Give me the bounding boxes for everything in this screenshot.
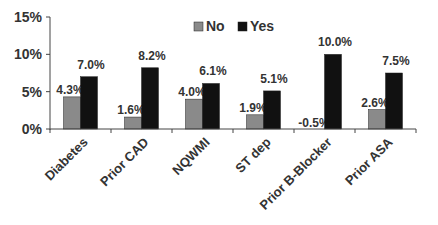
bars: 4.3%7.0%1.6%8.2%4.0%6.1%1.9%5.1%-0.5%10.… (56, 35, 410, 130)
bar-no (186, 99, 203, 129)
bar-no (125, 117, 142, 129)
x-category-label: Diabetes (42, 135, 91, 184)
bar-no (369, 110, 386, 129)
bar-yes (203, 83, 220, 129)
data-label: 4.0% (178, 85, 206, 99)
bar-yes (325, 54, 342, 129)
x-category-label: NQWMI (169, 135, 212, 178)
data-label: 4.3% (56, 83, 84, 97)
bar-yes (142, 68, 159, 129)
legend-swatch-no (194, 22, 203, 31)
x-category-label: ST dep (232, 134, 273, 175)
y-tick-label: 15% (14, 9, 43, 25)
bar-yes (386, 73, 403, 129)
y-tick-label: 5% (22, 84, 43, 100)
y-tick-label: 0% (22, 121, 43, 137)
bar-yes (264, 91, 281, 129)
data-label: 7.0% (77, 58, 105, 72)
data-label: 1.6% (117, 103, 145, 117)
x-axis: DiabetesPrior CADNQWMIST depPrior B-Bloc… (42, 129, 416, 213)
legend-swatch-yes (238, 22, 247, 31)
bar-no (64, 97, 81, 129)
data-label: 1.9% (239, 101, 267, 115)
data-label: 7.5% (382, 54, 410, 68)
bar-no (247, 115, 264, 129)
bar-yes (81, 77, 98, 129)
data-label: 5.1% (260, 72, 288, 86)
data-label: 10.0% (318, 35, 352, 49)
y-axis: 0%5%10%15% (14, 9, 50, 137)
data-label: 8.2% (138, 49, 166, 63)
x-category-label: Prior ASA (342, 134, 396, 188)
y-tick-label: 10% (14, 46, 43, 62)
bar-chart: 0%5%10%15% 4.3%7.0%1.6%8.2%4.0%6.1%1.9%5… (0, 0, 438, 225)
data-label: 2.6% (361, 96, 389, 110)
legend-label-no: No (206, 18, 225, 34)
legend-label-yes: Yes (250, 18, 274, 34)
x-category-label: Prior CAD (97, 135, 152, 190)
data-label: 6.1% (199, 64, 227, 78)
legend: NoYes (194, 18, 274, 34)
